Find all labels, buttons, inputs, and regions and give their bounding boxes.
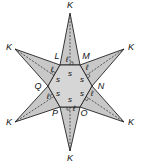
point-label-K: K [67, 0, 74, 10]
vertex-label-P: P [52, 108, 58, 118]
height-label-l: ℓ [46, 92, 50, 101]
vertex-label-O: O [80, 108, 87, 118]
point-label-K: K [67, 153, 74, 163]
star-hexagon-figure: LMNOPQKKKKKKssssssℓℓℓℓℓℓ [0, 0, 146, 163]
height-label-l: ℓ [85, 63, 89, 72]
side-label-s: s [56, 89, 60, 98]
point-label-K: K [128, 117, 135, 127]
side-label-s: s [56, 75, 60, 84]
point-label-K: K [6, 42, 13, 52]
vertex-label-M: M [82, 51, 90, 61]
height-label-l: ℓ [72, 104, 76, 113]
side-label-s: s [68, 69, 72, 78]
point-label-K: K [128, 42, 135, 52]
height-label-l: ℓ [50, 65, 54, 74]
height-label-l: ℓ [90, 89, 94, 98]
side-label-s: s [68, 95, 72, 104]
height-label-l: ℓ [65, 55, 69, 64]
point-label-K: K [6, 117, 13, 127]
vertex-label-Q: Q [34, 81, 41, 91]
vertex-label-N: N [98, 81, 105, 91]
side-label-s: s [80, 75, 84, 84]
side-label-s: s [80, 89, 84, 98]
vertex-label-L: L [54, 51, 59, 61]
